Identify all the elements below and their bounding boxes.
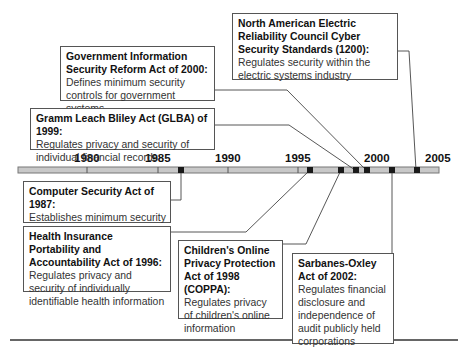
event-title: Sarbanes-Oxley Act of 2002: — [298, 257, 389, 283]
year-label-1990: 1990 — [215, 152, 241, 164]
event-title: North American Electric Reliability Coun… — [238, 17, 393, 56]
marker-2000[interactable] — [364, 167, 370, 173]
event-title: Government Information Security Reform A… — [66, 50, 210, 76]
year-label-2000: 2000 — [364, 152, 390, 164]
event-title: Health Insurance Portability and Account… — [29, 230, 166, 269]
connector-nerc — [397, 51, 416, 170]
event-box-coppa: Children's Online Privacy Protection Act… — [178, 240, 283, 319]
event-box-sox: Sarbanes-Oxley Act of 2002: Regulates fi… — [292, 253, 394, 344]
marker-2003[interactable] — [414, 167, 420, 173]
event-title: Computer Security Act of 1987: — [29, 185, 166, 211]
event-description: Regulates privacy and security of indivi… — [36, 138, 210, 164]
connector-coppa — [282, 170, 341, 244]
connector-hipaa — [170, 170, 310, 232]
event-title: Children's Online Privacy Protection Act… — [184, 244, 278, 296]
marker-2002[interactable] — [389, 167, 395, 173]
event-box-glba: Gramm Leach Bliley Act (GLBA) of 1999: R… — [30, 108, 215, 150]
connector-csa — [170, 170, 181, 200]
event-box-gisra: Government Information Security Reform A… — [60, 46, 215, 101]
event-box-hipaa: Health Insurance Portability and Account… — [23, 226, 171, 292]
event-description: Regulates financial disclosure and indep… — [298, 283, 389, 348]
marker-1999[interactable] — [353, 167, 359, 173]
event-description: Regulates privacy and security of indivi… — [29, 269, 166, 308]
year-label-2005: 2005 — [425, 152, 451, 164]
event-description: Regulates security within the electric s… — [238, 56, 393, 82]
event-box-nerc: North American Electric Reliability Coun… — [232, 13, 398, 80]
year-label-1995: 1995 — [285, 152, 311, 164]
marker-1998[interactable] — [338, 167, 344, 173]
event-box-csa: Computer Security Act of 1987: Establish… — [23, 181, 171, 223]
marker-1996[interactable] — [307, 167, 313, 173]
event-title: Gramm Leach Bliley Act (GLBA) of 1999: — [36, 112, 210, 138]
marker-1987[interactable] — [178, 167, 184, 173]
event-description: Regulates privacy of children's online i… — [184, 296, 278, 335]
